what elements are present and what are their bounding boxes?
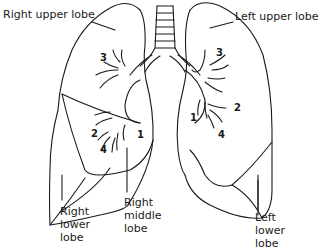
segment-4-left: 4 [218,130,225,140]
label-left-lower-lobe: Left lower lobe [255,211,285,250]
label-line: Right [60,205,90,218]
right-lung [50,3,154,225]
label-right-upper-lobe: Right upper lobe [3,8,95,21]
label-line: lower [255,224,285,237]
label-line: Right [124,196,162,209]
leader-lines [62,22,258,210]
label-line: middle [124,209,162,222]
segment-1-left: 1 [190,113,197,123]
segment-2-right: 2 [91,129,98,139]
label-line: lobe [124,222,162,235]
segment-2-left: 2 [234,103,241,113]
label-left-upper-lobe: Left upper lobe [235,10,318,23]
label-line: lobe [60,231,90,244]
segment-3-right: 3 [100,53,107,63]
label-right-middle-lobe: Right middle lobe [124,196,162,235]
label-line: lobe [255,237,285,250]
segment-3-left: 3 [216,48,223,58]
label-right-lower-lobe: Right lower lobe [60,205,90,244]
label-line: lower [60,218,90,231]
segment-1-right: 1 [137,130,144,140]
trachea [130,6,200,75]
segment-4-right: 4 [100,145,107,155]
label-line: Left [255,211,285,224]
